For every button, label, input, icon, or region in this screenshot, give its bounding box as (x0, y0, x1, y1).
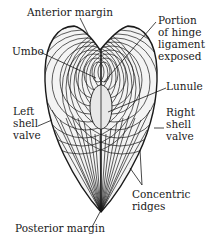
label-umbo: Umbo (12, 45, 44, 57)
lunule-region (90, 85, 112, 129)
label-right-shell-valve: Right shell valve (166, 106, 195, 142)
label-concentric-ridges: Concentric ridges (132, 188, 190, 212)
label-left-shell-valve: Left shell valve (13, 105, 41, 141)
label-lunule: Lunule (166, 80, 203, 92)
label-posterior-margin: Posterior margin (15, 222, 105, 234)
label-hinge-ligament: Portion of hinge ligament exposed (158, 14, 205, 62)
shell-diagram: Anterior margin Umbo Portion of hinge li… (0, 0, 206, 242)
label-anterior-margin: Anterior margin (27, 6, 113, 18)
